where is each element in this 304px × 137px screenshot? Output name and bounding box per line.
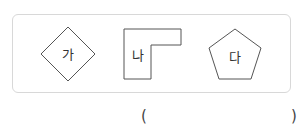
shapes-figure: 가 나 다	[0, 0, 304, 137]
answer-open-paren: (	[141, 107, 147, 125]
answer-close-paren: )	[291, 107, 297, 125]
shape-na-l-shape: 나	[124, 29, 181, 79]
shape-ga-rhombus: 가	[41, 27, 95, 81]
shape-label-na: 나	[132, 48, 144, 63]
shape-da-pentagon: 다	[209, 29, 261, 79]
shape-label-ga: 가	[62, 47, 74, 62]
shape-label-da: 다	[229, 50, 241, 65]
